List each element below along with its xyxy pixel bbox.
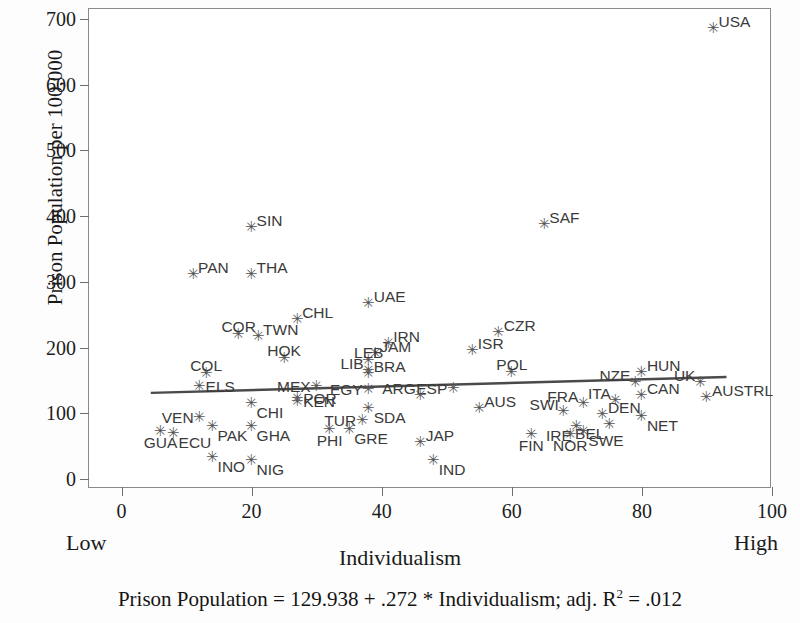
asterisk-marker-icon: ✳: [577, 395, 590, 410]
asterisk-marker-icon: ✳: [356, 411, 369, 426]
data-point-label: AUS: [484, 394, 516, 410]
data-point-label: PAK: [218, 428, 248, 444]
data-point-label: JAP: [426, 428, 454, 444]
data-point-label: GHA: [257, 428, 291, 444]
x-tick-label: 0: [117, 500, 127, 523]
equation-tail: = .012: [623, 587, 682, 611]
asterisk-marker-icon: ✳: [193, 409, 206, 424]
data-point-label: SWE: [588, 433, 623, 449]
y-tick-label: 200: [46, 336, 76, 359]
data-point-label: AUSTRL: [712, 383, 773, 399]
chart-page: Prison Population per 100,000 0100200300…: [0, 0, 800, 623]
data-point-label: LIB: [340, 356, 363, 372]
y-tick-label: 300: [46, 270, 76, 293]
data-point-label: INO: [218, 459, 246, 475]
data-point-label: ISR: [478, 336, 504, 352]
data-point-label: HOK: [267, 343, 301, 359]
y-tick-mark: [80, 150, 89, 151]
x-tick-mark: [252, 487, 253, 496]
y-tick-label: 700: [46, 7, 76, 30]
data-point-label: KEN: [303, 394, 335, 410]
y-tick-label: 500: [46, 139, 76, 162]
data-point-label: FIN: [519, 438, 544, 454]
x-tick-label: 100: [757, 500, 787, 523]
data-point-label: ELS: [206, 379, 235, 395]
y-tick-mark: [80, 216, 89, 217]
y-tick-mark: [80, 85, 89, 86]
data-point-label: CZR: [504, 318, 536, 334]
data-point-label: SIN: [257, 213, 283, 229]
y-tick-mark: [80, 282, 89, 283]
plot-inner: 0100200300400500600700020406080100✳USA✳S…: [89, 9, 770, 487]
x-tick-label: 80: [632, 500, 652, 523]
y-tick-label: 100: [46, 402, 76, 425]
data-point-label: TWN: [263, 322, 298, 338]
data-point-label: CHL: [302, 305, 333, 321]
x-tick-mark: [642, 487, 643, 496]
asterisk-marker-icon: ✳: [291, 393, 304, 408]
data-point-label: BRA: [374, 359, 406, 375]
asterisk-marker-icon: ✳: [362, 380, 375, 395]
data-point-label: USA: [718, 14, 750, 30]
data-point-label: SWI: [530, 397, 559, 413]
asterisk-marker-icon: ✳: [193, 378, 206, 393]
data-point-label: ARG: [382, 381, 416, 397]
x-tick-label: 20: [242, 500, 262, 523]
asterisk-marker-icon: ✳: [414, 386, 427, 401]
x-tick-mark: [772, 487, 773, 496]
x-tick-label: 40: [372, 500, 392, 523]
data-point-label: PHI: [317, 433, 343, 449]
x-tick-mark: [512, 487, 513, 496]
asterisk-marker-icon: ✳: [447, 380, 460, 395]
data-point-label: IND: [439, 462, 466, 478]
regression-equation-caption: Prison Population = 129.938 + .272 * Ind…: [0, 586, 800, 612]
x-axis-title: Individualism: [0, 545, 800, 571]
asterisk-marker-icon: ✳: [603, 416, 616, 431]
y-tick-mark: [80, 413, 89, 414]
data-point-label: THA: [257, 260, 288, 276]
plot-area: 0100200300400500600700020406080100✳USA✳S…: [88, 8, 771, 488]
x-tick-mark: [122, 487, 123, 496]
data-point-label: PAN: [198, 260, 229, 276]
y-tick-label: 400: [46, 205, 76, 228]
data-point-label: CHI: [257, 405, 284, 421]
y-tick-mark: [80, 19, 89, 20]
y-tick-label: 0: [66, 468, 76, 491]
asterisk-marker-icon: ✳: [557, 403, 570, 418]
data-point-label: NET: [647, 418, 678, 434]
data-point-label: NOR: [553, 438, 587, 454]
equation-text: Prison Population = 129.938 + .272 * Ind…: [118, 587, 617, 611]
x-tick-mark: [382, 487, 383, 496]
data-point-label: JAM: [380, 339, 411, 355]
data-point-label: NZE: [599, 368, 630, 384]
data-point-label: GRE: [354, 431, 388, 447]
data-point-label: SDA: [374, 410, 406, 426]
y-tick-mark: [80, 348, 89, 349]
data-point-label: POL: [496, 357, 527, 373]
data-point-label: COL: [190, 358, 222, 374]
data-point-label: UAE: [374, 289, 406, 305]
y-tick-label: 600: [46, 73, 76, 96]
y-tick-mark: [80, 479, 89, 480]
x-tick-label: 60: [502, 500, 522, 523]
data-point-label: NIG: [257, 462, 285, 478]
data-point-label: SAF: [549, 210, 579, 226]
asterisk-marker-icon: ✳: [694, 373, 707, 388]
data-point-label: CAN: [647, 381, 680, 397]
